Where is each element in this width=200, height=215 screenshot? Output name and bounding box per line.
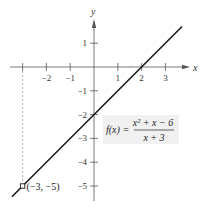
series (12, 27, 182, 197)
hole-label: (−3, −5) (27, 181, 60, 193)
x-tick-label: 3 (163, 73, 168, 83)
y-tick-label: −4 (77, 157, 87, 167)
y-tick-label: −2 (77, 110, 87, 120)
x-tick-label: 1 (116, 73, 121, 83)
x-axis-label: x (192, 62, 198, 73)
x-axis-arrow-icon (182, 65, 190, 69)
function-graph: xy −2−11231−1−2−3−4−5 (−3, −5)f(x) = x² … (0, 0, 200, 215)
y-axis-label: y (90, 6, 96, 17)
y-tick-label: −5 (77, 181, 87, 191)
annotations: (−3, −5)f(x) = x² + x − 6x + 3 (27, 115, 179, 193)
formula-numerator: x² + x − 6 (132, 117, 173, 128)
ticks: −2−11231−1−2−3−4−5 (23, 38, 169, 191)
y-tick-label: −1 (77, 86, 87, 96)
hole-marker (20, 184, 24, 188)
y-tick-label: −3 (77, 133, 87, 143)
y-tick-label: 1 (83, 38, 88, 48)
x-tick-label: −2 (42, 73, 52, 83)
x-tick-label: −1 (65, 73, 75, 83)
x-tick-label: 2 (139, 73, 144, 83)
formula-lhs: f(x) = (106, 124, 129, 136)
y-axis-arrow-icon (92, 19, 96, 28)
function-line (12, 27, 182, 197)
formula-denominator: x + 3 (142, 132, 164, 143)
